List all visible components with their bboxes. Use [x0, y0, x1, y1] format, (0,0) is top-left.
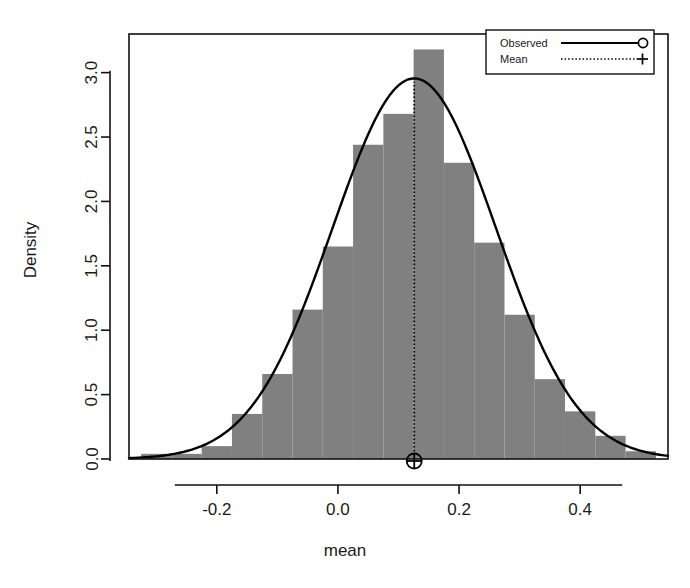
histogram-bar	[474, 243, 504, 459]
y-axis-tick-label: 1.5	[83, 254, 102, 278]
y-axis-tick-label: 1.0	[83, 318, 102, 342]
y-axis-tick-label: 2.0	[83, 190, 102, 214]
histogram-bar	[293, 310, 323, 459]
histogram-bar	[323, 247, 353, 460]
histogram-bar	[444, 163, 474, 459]
y-axis-tick-label: 3.0	[83, 61, 102, 85]
y-axis-tick-label: 2.5	[83, 125, 102, 149]
x-axis-tick-label: 0.2	[447, 500, 471, 519]
chart-legend: Observed Mean	[486, 30, 654, 74]
y-axis-title: Density	[21, 221, 40, 278]
legend-label-mean: Mean	[500, 53, 528, 65]
histogram-bar	[353, 145, 383, 459]
histogram-bar	[262, 374, 292, 459]
x-axis-tick-label: -0.2	[202, 500, 231, 519]
histogram-bar	[504, 315, 534, 459]
legend-label-observed: Observed	[500, 37, 548, 49]
chart-canvas: -0.20.00.20.4 0.00.51.01.52.02.53.0 mean…	[0, 0, 690, 588]
histogram-bar	[383, 114, 413, 459]
histogram-bar	[202, 446, 232, 459]
histogram-bar	[535, 379, 565, 459]
x-axis-tick-label: 0.0	[326, 500, 350, 519]
mean-marker	[407, 454, 422, 469]
density-histogram-figure: -0.20.00.20.4 0.00.51.01.52.02.53.0 mean…	[0, 0, 690, 588]
y-axis-tick-label: 0.0	[83, 447, 102, 471]
y-axis-tick-label: 0.5	[83, 383, 102, 407]
histogram-bar	[595, 436, 625, 459]
legend-observed-circle-icon	[638, 38, 647, 47]
x-axis-tick-label: 0.4	[568, 500, 592, 519]
x-axis-title: mean	[324, 541, 367, 560]
histogram-bar	[414, 49, 444, 459]
histogram-bar	[232, 414, 262, 459]
histogram-bar	[565, 411, 595, 459]
